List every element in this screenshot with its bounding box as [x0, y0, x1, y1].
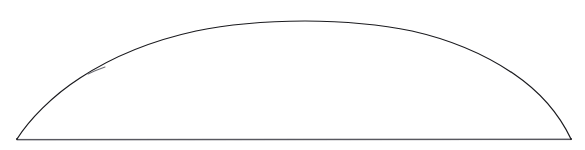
canvas-background: [0, 0, 585, 150]
arc-diagram: [0, 0, 585, 150]
right-vertex-point: [570, 138, 572, 140]
left-vertex-point: [16, 138, 18, 140]
figure-canvas: [0, 0, 585, 150]
